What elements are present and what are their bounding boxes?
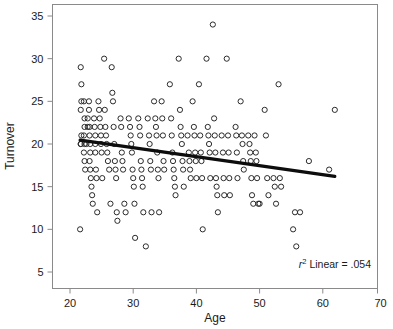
y-tick-label: 30	[31, 53, 43, 65]
x-tick-label: 20	[64, 297, 76, 309]
r-squared-annotation: r2 Linear = .054	[299, 257, 371, 271]
x-tick-label: 60	[317, 297, 329, 309]
y-tick-label: 10	[31, 223, 43, 235]
y-axis-title: Turnover	[3, 122, 17, 170]
scatter-chart-figure: 5101520253035 203040506070 Turnover Age …	[0, 0, 393, 329]
y-axis-ticks: 5101520253035	[31, 10, 52, 278]
x-tick-label: 70	[374, 297, 386, 309]
y-tick-label: 35	[31, 10, 43, 22]
x-axis-ticks: 203040506070	[64, 289, 387, 309]
x-tick-label: 50	[253, 297, 265, 309]
x-axis-title: Age	[204, 311, 226, 325]
x-tick-label: 30	[127, 297, 139, 309]
y-tick-label: 20	[31, 138, 43, 150]
y-tick-label: 5	[37, 266, 43, 278]
y-tick-label: 15	[31, 181, 43, 193]
x-tick-label: 40	[190, 297, 202, 309]
y-tick-label: 25	[31, 95, 43, 107]
plot-canvas: 5101520253035 203040506070 Turnover Age …	[0, 0, 393, 329]
